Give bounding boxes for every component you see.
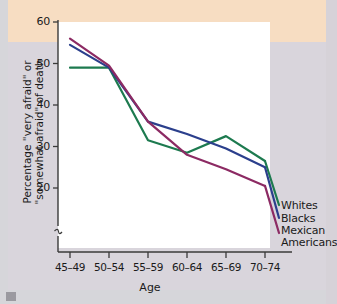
figure-corner-mark [6,292,16,301]
y-axis-title: Percentage "very afraid" or "somewhat af… [21,37,45,227]
y-axis-ticks [53,22,58,188]
legend-text-whites: Whites [281,199,318,212]
legend-leader-whites [265,161,279,205]
series-line-whites [70,68,265,161]
chart-axes [55,20,293,252]
x-axis-title: Age [0,281,300,294]
legend-text-americans: Americans [281,237,337,249]
y-axis-break-icon [55,229,63,233]
legend-leader-lines [265,161,279,233]
legend-label-mexican-americans: Mexican Americans [281,225,337,249]
y-tick-label: 60 [24,15,50,28]
legend-label-whites: Whites [281,199,318,212]
x-tick-label: 70–74 [241,261,289,273]
y-axis-title-line2: "somewhat afraid" of death [33,60,45,205]
y-axis-title-line1: Percentage "very afraid" or [21,60,33,203]
series-line-blacks [70,45,265,167]
chart-series-lines [70,39,265,186]
x-axis-ticks [70,252,265,258]
